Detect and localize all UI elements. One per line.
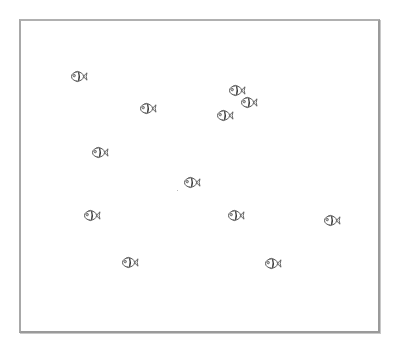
fish-icon — [83, 209, 101, 222]
fish-8[interactable] — [83, 209, 101, 222]
fish-icon — [216, 109, 234, 122]
fish-5[interactable] — [216, 109, 234, 122]
fish-6[interactable] — [91, 146, 109, 159]
fish-7[interactable] — [183, 176, 201, 189]
fish-icon — [70, 70, 88, 83]
fish-icon — [240, 96, 258, 109]
fish-10[interactable] — [323, 214, 341, 227]
fish-icon — [121, 256, 139, 269]
fish-11[interactable] — [121, 256, 139, 269]
speck — [177, 190, 178, 191]
fish-icon — [227, 209, 245, 222]
fish-2[interactable] — [139, 102, 157, 115]
fish-9[interactable] — [227, 209, 245, 222]
fish-4[interactable] — [240, 96, 258, 109]
fish-1[interactable] — [70, 70, 88, 83]
fish-icon — [91, 146, 109, 159]
fish-icon — [264, 257, 282, 270]
fish-icon — [183, 176, 201, 189]
fish-icon — [323, 214, 341, 227]
fish-icon — [139, 102, 157, 115]
fish-12[interactable] — [264, 257, 282, 270]
